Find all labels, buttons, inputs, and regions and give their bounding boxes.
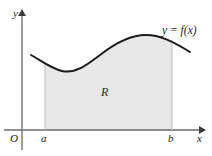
- y-axis-arrowhead: [18, 9, 26, 16]
- region-label: R: [101, 86, 108, 98]
- lower-limit-label: a: [41, 133, 47, 144]
- upper-limit-label: b: [168, 133, 174, 144]
- x-axis-label: x: [197, 133, 202, 144]
- origin-label: O: [10, 133, 18, 144]
- figure-container: y x O a b R y = f(x): [0, 0, 212, 156]
- curve-equation-label: y = f(x): [162, 25, 197, 37]
- y-axis-label: y: [13, 8, 18, 19]
